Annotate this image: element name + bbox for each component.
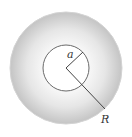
- annulus-diagram: a R: [0, 0, 132, 137]
- outer-radius-label: R: [100, 113, 109, 126]
- inner-radius-label: a: [67, 48, 74, 61]
